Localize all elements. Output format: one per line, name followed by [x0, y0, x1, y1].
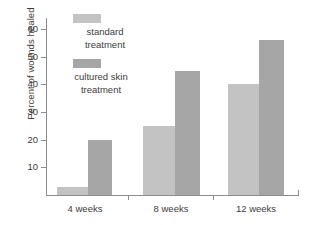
legend-label-line2: treatment: [62, 39, 148, 52]
bar-standard-8-weeks: [143, 126, 175, 195]
bar-standard-12-weeks: [228, 84, 259, 195]
x-axis-label-0: 4 weeks: [50, 203, 120, 214]
legend-swatch-1: [73, 59, 101, 68]
y-tick-label: 60: [16, 24, 38, 34]
y-axis-title: Percent of wounds healed: [25, 0, 36, 144]
legend-label-0: standardtreatment: [62, 26, 148, 51]
legend-label-line2: treatment: [58, 84, 144, 97]
y-tick-label: 20: [16, 135, 38, 145]
bar-cultured-8-weeks: [175, 71, 200, 196]
y-tick-label: 30: [16, 107, 38, 117]
y-tick-mark: [41, 167, 46, 168]
y-tick-10: 10: [0, 167, 46, 168]
y-tick-mark: [41, 29, 46, 30]
y-tick-20: 20: [0, 140, 46, 141]
y-tick-label: 10: [16, 162, 38, 172]
bar-chart: Percent of wounds healed 102030405060 4 …: [0, 0, 311, 225]
legend-label-line1: cultured skin: [58, 71, 144, 84]
legend-label-line1: standard: [62, 26, 148, 39]
x-axis-separator-1: [213, 195, 214, 200]
legend-label-1: cultured skintreatment: [58, 71, 144, 96]
y-tick-50: 50: [0, 57, 46, 58]
x-axis-separator-0: [128, 195, 129, 200]
y-tick-mark: [41, 57, 46, 58]
y-tick-60: 60: [0, 29, 46, 30]
y-tick-label: 40: [16, 79, 38, 89]
y-axis-line: [46, 18, 47, 196]
x-axis-label-1: 8 weeks: [136, 203, 206, 214]
bar-cultured-12-weeks: [259, 40, 284, 195]
bar-standard-4-weeks: [57, 187, 88, 195]
y-tick-40: 40: [0, 84, 46, 85]
x-axis-label-2: 12 weeks: [221, 203, 291, 214]
x-axis-line: [46, 195, 299, 196]
y-tick-mark: [41, 112, 46, 113]
legend-swatch-0: [73, 14, 101, 23]
bar-cultured-4-weeks: [88, 140, 112, 195]
y-tick-30: 30: [0, 112, 46, 113]
y-tick-label: 50: [16, 52, 38, 62]
x-axis-end-tick: [298, 190, 299, 196]
y-tick-mark: [41, 140, 46, 141]
y-tick-mark: [41, 84, 46, 85]
